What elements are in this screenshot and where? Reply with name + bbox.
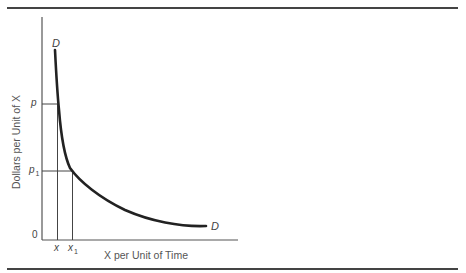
quantity-x1-label: x1 — [68, 243, 78, 255]
demand-curve — [55, 50, 206, 226]
curve-label-end: D — [211, 221, 219, 232]
bottom-rule — [7, 268, 458, 270]
quantity-x1-subscript: 1 — [74, 248, 78, 255]
origin-zero-label: 0 — [32, 230, 38, 240]
price-p1-subscript: 1 — [36, 170, 40, 177]
quantity-x1-main: x — [68, 242, 73, 253]
y-axis-title: Dollars per Unit of X — [10, 95, 22, 189]
demand-curve-figure: D D p p1 0 x x1 X per Unit of Time Dolla… — [0, 0, 466, 273]
plot-area — [0, 0, 466, 273]
price-p-label: p — [31, 98, 37, 108]
price-p1-label: p1 — [29, 165, 39, 177]
price-p1-main: p — [29, 164, 35, 175]
curve-label-top: D — [52, 38, 60, 49]
x-axis-title: X per Unit of Time — [104, 249, 188, 261]
quantity-x-label: x — [54, 243, 59, 253]
